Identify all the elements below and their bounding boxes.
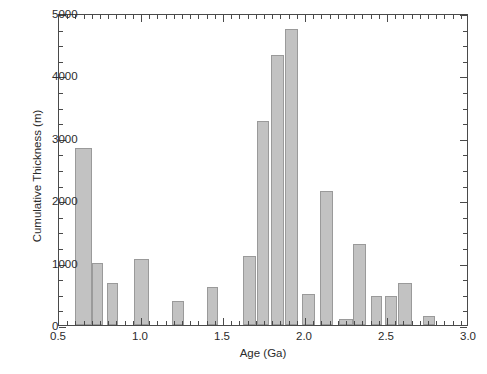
y-minor-tick [59,31,63,32]
x-minor-tick-top [420,15,421,19]
y-minor-tick [59,62,63,63]
x-minor-tick [108,321,109,325]
x-minor-tick-top [321,15,322,19]
y-minor-tick [59,124,63,125]
y-minor-tick-right [463,187,467,188]
y-minor-tick [59,155,63,156]
x-minor-tick-top [190,15,191,19]
histogram-bar [257,121,268,325]
histogram-bar [207,287,218,325]
y-minor-tick [59,171,63,172]
x-minor-tick [354,321,355,325]
x-minor-tick [321,321,322,325]
y-major-tick-right [460,327,467,328]
y-minor-tick [59,280,63,281]
x-minor-tick-top [330,15,331,19]
x-tick-label: 2.0 [296,330,312,342]
x-minor-tick-top [174,15,175,19]
x-minor-tick [149,321,150,325]
x-minor-tick-top [289,15,290,19]
x-minor-tick [436,321,437,325]
x-minor-tick [313,321,314,325]
y-major-tick-right [460,265,467,266]
histogram-bar [353,244,366,325]
x-minor-tick [297,321,298,325]
y-major-tick-right [460,15,467,16]
y-minor-tick-right [463,109,467,110]
histogram-figure: 0.51.01.52.02.53.0 010002000300040005000… [0,0,487,374]
histogram-bar [243,256,256,325]
y-minor-tick [59,93,63,94]
x-minor-tick [166,321,167,325]
histogram-bar [371,296,382,325]
x-minor-tick-top [116,15,117,19]
y-minor-tick-right [463,311,467,312]
y-minor-tick-right [463,31,467,32]
x-minor-tick [239,321,240,325]
x-minor-tick [133,321,134,325]
y-major-tick-right [460,77,467,78]
y-major-tick [59,327,66,328]
x-minor-tick-top [272,15,273,19]
y-major-tick-right [460,202,467,203]
x-minor-tick [190,321,191,325]
histogram-bar [92,263,103,325]
x-minor-tick [207,321,208,325]
histogram-bar [75,148,91,325]
x-minor-tick [215,321,216,325]
x-minor-tick [264,321,265,325]
x-minor-tick [428,321,429,325]
x-major-tick [141,318,142,325]
x-minor-tick-top [403,15,404,19]
histogram-bar [398,283,411,325]
x-minor-tick [412,321,413,325]
x-minor-tick-top [313,15,314,19]
x-minor-tick-top [444,15,445,19]
x-minor-tick [371,321,372,325]
x-minor-tick [67,321,68,325]
x-minor-tick-top [379,15,380,19]
x-minor-tick [100,321,101,325]
y-axis-title: Cumulative Thickness (m) [31,61,43,291]
x-minor-tick [403,321,404,325]
x-minor-tick [272,321,273,325]
y-minor-tick [59,233,63,234]
y-minor-tick-right [463,155,467,156]
x-minor-tick-top [280,15,281,19]
x-minor-tick [346,321,347,325]
x-minor-tick-top [157,15,158,19]
y-major-tick-right [460,140,467,141]
x-minor-tick [461,321,462,325]
x-minor-tick-top [125,15,126,19]
x-major-tick [305,318,306,325]
histogram-bar [271,55,284,325]
histogram-bar [285,29,298,325]
y-minor-tick-right [463,249,467,250]
histogram-bar [320,191,333,325]
x-major-tick-top [387,15,388,22]
x-minor-tick [174,321,175,325]
bar-series [59,15,467,325]
x-minor-tick [248,321,249,325]
x-minor-tick [280,321,281,325]
x-major-tick-top [223,15,224,22]
x-axis-title: Age (Ga) [58,347,468,359]
x-tick-label: 2.5 [378,330,394,342]
x-tick-label: 1.0 [132,330,148,342]
x-minor-tick [395,321,396,325]
x-minor-tick [198,321,199,325]
x-minor-tick-top [264,15,265,19]
x-minor-tick-top [198,15,199,19]
y-minor-tick-right [463,218,467,219]
x-minor-tick [379,321,380,325]
y-minor-tick-right [463,171,467,172]
x-minor-tick-top [231,15,232,19]
y-minor-tick [59,46,63,47]
x-minor-tick-top [84,15,85,19]
x-minor-tick [182,321,183,325]
x-minor-tick-top [453,15,454,19]
x-minor-tick-top [239,15,240,19]
x-minor-tick-top [92,15,93,19]
y-minor-tick [59,249,63,250]
x-minor-tick [84,321,85,325]
